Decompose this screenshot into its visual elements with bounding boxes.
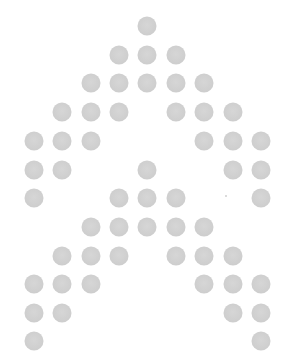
- pattern-speck: [225, 195, 227, 197]
- pattern-dot: [110, 247, 129, 266]
- pattern-dot: [138, 189, 157, 208]
- pattern-dot: [110, 74, 129, 93]
- pattern-dot: [167, 74, 186, 93]
- pattern-dot: [53, 132, 72, 151]
- pattern-dot: [224, 161, 243, 180]
- pattern-dot: [167, 218, 186, 237]
- pattern-dot: [82, 132, 101, 151]
- pattern-dot: [252, 132, 271, 151]
- pattern-dot: [195, 103, 214, 122]
- pattern-dot: [252, 275, 271, 294]
- pattern-dot: [224, 304, 243, 323]
- pattern-dot: [138, 74, 157, 93]
- pattern-dot: [82, 275, 101, 294]
- pattern-dot: [82, 74, 101, 93]
- pattern-dot: [53, 247, 72, 266]
- pattern-dot: [167, 189, 186, 208]
- pattern-dot: [252, 161, 271, 180]
- pattern-dot: [138, 161, 157, 180]
- pattern-dot: [110, 189, 129, 208]
- pattern-dot: [167, 103, 186, 122]
- pattern-dot: [82, 218, 101, 237]
- pattern-dot: [82, 103, 101, 122]
- pattern-dot: [53, 275, 72, 294]
- pattern-dot: [167, 247, 186, 266]
- pattern-dot: [138, 46, 157, 65]
- pattern-dot: [110, 103, 129, 122]
- pattern-dot: [82, 247, 101, 266]
- pattern-dot: [195, 74, 214, 93]
- pattern-dot: [138, 17, 157, 36]
- pattern-dot: [195, 132, 214, 151]
- pattern-dot: [195, 247, 214, 266]
- pattern-dot: [53, 304, 72, 323]
- pattern-dot: [25, 304, 44, 323]
- pattern-dot: [224, 132, 243, 151]
- pattern-dot: [224, 103, 243, 122]
- pattern-dot: [252, 332, 271, 351]
- pattern-dot: [53, 103, 72, 122]
- pattern-dot: [138, 218, 157, 237]
- pattern-dot: [252, 304, 271, 323]
- pattern-dot: [167, 46, 186, 65]
- pattern-dot: [25, 189, 44, 208]
- pattern-dot: [195, 275, 214, 294]
- pattern-dot: [25, 161, 44, 180]
- pattern-dot: [224, 247, 243, 266]
- pattern-dot: [195, 218, 214, 237]
- pattern-dot: [110, 218, 129, 237]
- pattern-dot: [252, 189, 271, 208]
- pattern-dot: [25, 132, 44, 151]
- pattern-dot: [224, 275, 243, 294]
- pattern-dot: [25, 332, 44, 351]
- pattern-dot: [53, 161, 72, 180]
- pattern-dot: [25, 275, 44, 294]
- dot-pattern-canvas: [0, 0, 291, 358]
- pattern-dot: [110, 46, 129, 65]
